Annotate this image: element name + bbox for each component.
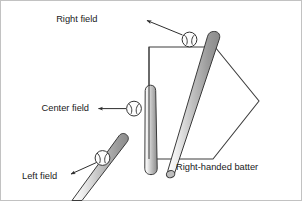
- baseball-bat-angle-diagram: Right field Center field Left field Righ…: [0, 0, 302, 201]
- label-left-field: Left field: [22, 171, 57, 181]
- baseball-left-field-icon: [95, 151, 110, 166]
- baseball-right-field-icon: [182, 32, 197, 47]
- bat-center-field: [145, 85, 157, 174]
- baseball-center-field-icon: [127, 101, 142, 116]
- diagram-canvas: Right field Center field Left field Righ…: [0, 0, 302, 201]
- label-right-handed-batter: Right-handed batter: [176, 162, 258, 172]
- label-center-field: Center field: [42, 103, 90, 113]
- label-right-field: Right field: [56, 14, 97, 24]
